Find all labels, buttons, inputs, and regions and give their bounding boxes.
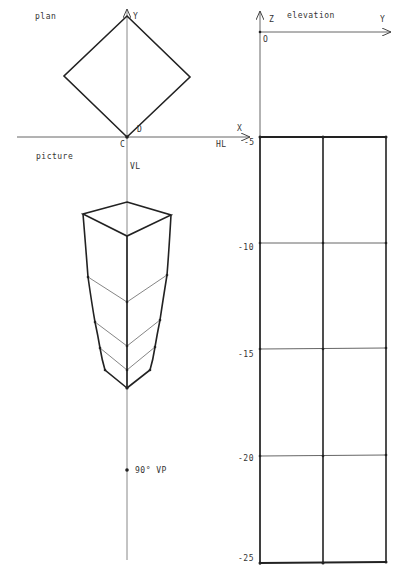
elevation-axes: [259, 11, 391, 565]
point-c-label: C: [120, 141, 125, 149]
tick-minus-10: -10: [238, 244, 254, 252]
box-left-edge: [83, 214, 127, 388]
vanishing-point-dot: [125, 468, 129, 472]
tick-minus-15: -15: [238, 351, 254, 359]
hl-label: HL: [216, 141, 227, 149]
elev-z-label: Z: [269, 16, 274, 24]
plan-label: plan: [35, 13, 56, 21]
elevation-grid: [259, 136, 388, 565]
plan-x-label: X: [237, 125, 242, 133]
plan-y-label: Y: [133, 13, 138, 21]
plan-axes: [17, 9, 250, 560]
tick-minus-25: -25: [238, 555, 254, 563]
tick-minus-20: -20: [238, 455, 254, 463]
tick-minus-5: -5: [244, 139, 255, 147]
picture-label: picture: [36, 153, 73, 161]
vanishing-point-label: 90° VP: [135, 467, 167, 475]
elev-y-label: Y: [380, 16, 385, 24]
elevation-label: elevation: [287, 12, 335, 20]
point-c-dot: [125, 135, 129, 139]
box-right-edge: [127, 215, 171, 388]
vl-label: VL: [130, 163, 141, 171]
point-d-label: D: [137, 126, 142, 134]
perspective-diagram: [0, 0, 402, 573]
elev-o-label: O: [263, 36, 268, 44]
